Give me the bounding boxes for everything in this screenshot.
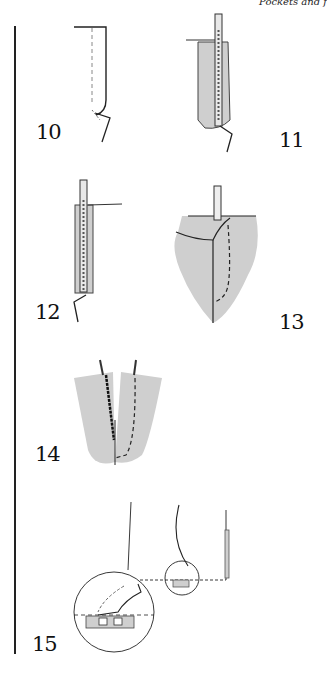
figure-15-illustration: [74, 502, 229, 652]
step-number-15: 15: [32, 632, 57, 656]
step-number-10: 10: [36, 120, 61, 144]
step-number-12: 12: [35, 300, 60, 324]
step-number-13: 13: [279, 310, 304, 334]
figure-13-illustration: [174, 186, 257, 323]
figure-12-illustration: [74, 180, 122, 322]
step-number-11: 11: [279, 128, 304, 152]
figure-10-illustration: [74, 27, 110, 142]
illustrations: [0, 0, 327, 678]
figure-14-illustration: [74, 360, 162, 465]
figure-11-illustration: [186, 14, 232, 152]
step-number-14: 14: [35, 442, 60, 466]
